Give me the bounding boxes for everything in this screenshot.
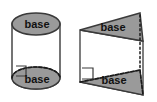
- prism-top-base-label: base: [100, 21, 125, 33]
- prism-bottom-base-label: base: [101, 74, 126, 86]
- geometry-figure-canvas: base base base base: [0, 0, 157, 102]
- cylinder-top-base-label: base: [24, 18, 49, 30]
- cylinder-bottom-base-label: base: [24, 73, 49, 85]
- cylinder-shape: base base: [12, 13, 60, 89]
